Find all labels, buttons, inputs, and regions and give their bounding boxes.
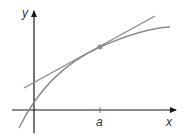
tangent-diagram: y x a <box>0 0 185 140</box>
y-axis-label: y <box>21 6 29 20</box>
curve <box>19 27 170 128</box>
tick-label-a: a <box>96 115 103 129</box>
tangent-point <box>98 45 103 50</box>
x-axis-label: x <box>165 115 173 129</box>
